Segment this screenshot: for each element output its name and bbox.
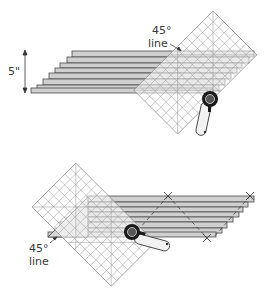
height-dimension-label: 5"	[8, 66, 20, 78]
ruler-line-degree-label: 45°	[152, 25, 172, 37]
bottom-diagram: 45° line	[0, 145, 272, 289]
ruler-line-word-label: line	[29, 256, 49, 268]
top-strata-illustration	[0, 0, 272, 145]
quilting-ruler	[32, 163, 155, 286]
ruler-line-word-label: line	[148, 38, 168, 50]
height-dimension-arrow	[23, 50, 27, 93]
top-diagram: 5" 45° line	[0, 0, 272, 145]
ruler-line-degree-label: 45°	[29, 243, 49, 255]
ruler-line-leader	[50, 237, 57, 243]
